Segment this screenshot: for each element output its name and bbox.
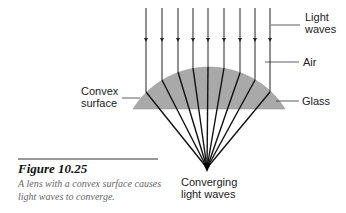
- focal-point: [203, 163, 211, 172]
- label-converging-light-waves: Converging light waves: [181, 176, 237, 200]
- label-air: Air: [303, 56, 316, 68]
- glass-lens: [133, 67, 285, 109]
- label-light-waves: Light waves: [305, 11, 336, 35]
- figure-caption: A lens with a convex surface causes ligh…: [18, 177, 168, 203]
- figure-title: Figure 10.25: [18, 161, 87, 177]
- ray-arrowheads: [144, 38, 272, 42]
- label-glass: Glass: [302, 95, 330, 107]
- label-convex-surface: Convex surface: [81, 85, 118, 109]
